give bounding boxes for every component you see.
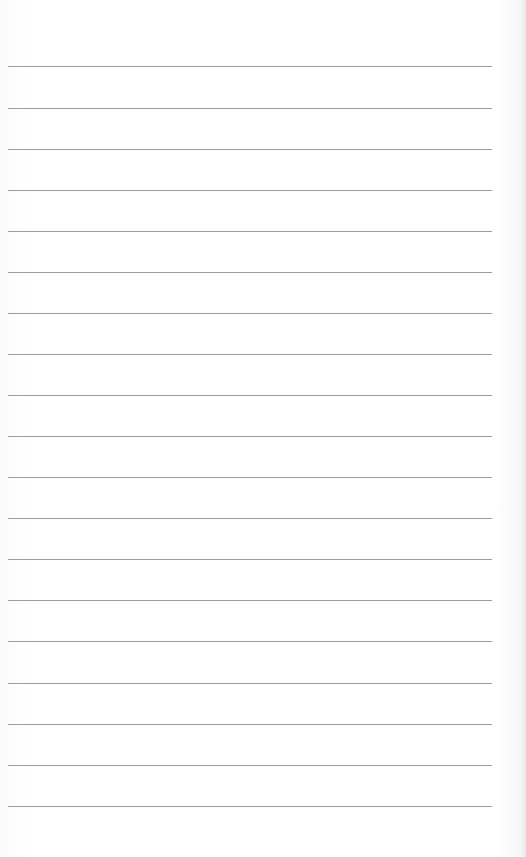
page-edge-shadow (520, 0, 526, 857)
ruled-line (8, 108, 492, 109)
ruled-line (8, 354, 492, 355)
ruled-line (8, 231, 492, 232)
ruled-line (8, 190, 492, 191)
ruled-line (8, 477, 492, 478)
ruled-line (8, 518, 492, 519)
ruled-line (8, 559, 492, 560)
ruled-line (8, 765, 492, 766)
ruled-line (8, 436, 492, 437)
ruled-line (8, 395, 492, 396)
ruled-line (8, 641, 492, 642)
ruled-line (8, 272, 492, 273)
ruled-line (8, 66, 492, 67)
ruled-line (8, 724, 492, 725)
ruled-line (8, 683, 492, 684)
ruled-line (8, 600, 492, 601)
ruled-line (8, 313, 492, 314)
ruled-line (8, 149, 492, 150)
ruled-paper-sheet (0, 0, 526, 857)
ruled-line (8, 806, 492, 807)
